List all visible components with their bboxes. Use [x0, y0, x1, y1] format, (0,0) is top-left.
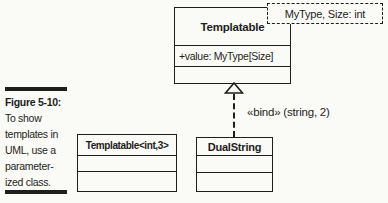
figure-label: Figure 5-10: — [5, 94, 73, 110]
caption-line: parameter- — [5, 158, 73, 174]
attributes-compartment-int3 — [78, 155, 176, 171]
class-name-dualstring: DualString — [197, 138, 272, 155]
operations-compartment-int3 — [78, 171, 176, 191]
operations-compartment-dualstring — [197, 172, 272, 191]
caption-line: UML, use a — [5, 142, 73, 158]
caption-line: templates in — [5, 126, 73, 142]
caption-line: To show — [5, 110, 73, 126]
bind-label: «bind» (string, 2) — [247, 106, 330, 118]
class-box-dualstring: DualString — [196, 137, 273, 192]
generalization-arrowhead-icon — [224, 82, 244, 94]
class-name-templatable-int3: Templatable<int,3> — [78, 135, 176, 155]
figure-rule-bottom — [5, 190, 67, 194]
attributes-compartment-dualstring — [197, 155, 272, 172]
attributes-compartment-templatable: +value: MyType[Size] — [175, 45, 290, 66]
figure-rule-top — [5, 87, 67, 91]
bind-dependency-line — [233, 94, 235, 137]
class-box-templatable-int3: Templatable<int,3> — [77, 134, 177, 192]
book-figure-page: Figure 5-10: To show templates in UML, u… — [0, 0, 388, 203]
template-parameter-box: MyType, Size: int — [267, 3, 383, 24]
figure-caption: Figure 5-10: To show templates in UML, u… — [5, 94, 73, 190]
attribute-value: +value: MyType[Size] — [179, 50, 273, 62]
caption-line: ized class. — [5, 174, 73, 190]
operations-compartment-templatable — [175, 66, 290, 83]
template-parameter-text: MyType, Size: int — [285, 8, 365, 20]
